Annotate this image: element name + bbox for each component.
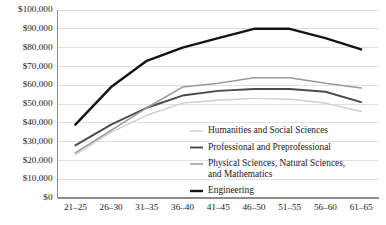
- legend-label: Physical Sciences, Natural Sciences,: [208, 158, 345, 168]
- y-axis-tick-label: $100,000: [18, 4, 53, 14]
- x-axis-tick-label: 26–30: [100, 202, 123, 212]
- x-axis-tick-label: 46–50: [242, 202, 265, 212]
- x-axis-tick-label: 56–60: [314, 202, 337, 212]
- legend-label: Professional and Preprofessional: [208, 142, 331, 152]
- x-axis-tick-label: 51–55: [278, 202, 301, 212]
- x-axis-tick-label: 41–45: [207, 202, 230, 212]
- x-axis-tick-label: 61–65: [350, 202, 373, 212]
- y-axis-tick-label: $50,000: [23, 98, 53, 108]
- x-axis-tick-label: 36–40: [171, 202, 194, 212]
- line-chart: $100,000$90,000$80,000$70,000$60,000$50,…: [0, 0, 386, 225]
- x-axis-tick-label: 21–25: [64, 202, 87, 212]
- legend-label: Humanities and Social Sciences: [208, 125, 328, 135]
- y-axis-tick-label: $40,000: [23, 117, 53, 127]
- y-axis-tick-label: $10,000: [23, 173, 53, 183]
- x-axis-tick-labels: 21–2526–3031–3536–4041–4546–5051–5556–60…: [64, 202, 373, 212]
- chart-container: $100,000$90,000$80,000$70,000$60,000$50,…: [0, 0, 386, 225]
- legend-label: Engineering: [208, 185, 254, 195]
- y-axis-tick-label: $20,000: [23, 155, 53, 165]
- y-axis-tick-label: $30,000: [23, 136, 53, 146]
- y-axis-tick-label: $80,000: [23, 42, 53, 52]
- y-axis-tick-label: $60,000: [23, 79, 53, 89]
- y-axis-tick-label: $90,000: [23, 23, 53, 33]
- legend-label-continuation: and Mathematics: [208, 169, 273, 179]
- y-axis-tick-label: $70,000: [23, 61, 53, 71]
- y-axis-tick-label: $0: [43, 192, 53, 202]
- x-axis-tick-label: 31–35: [135, 202, 158, 212]
